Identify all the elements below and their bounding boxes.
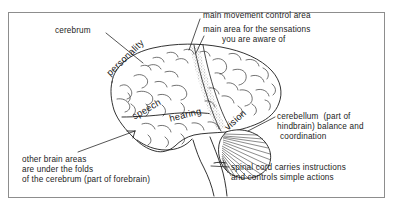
label-cerebellum-line3: coordination (280, 132, 326, 142)
leader-motor (189, 19, 200, 50)
label-other-brain-areas-line3: of the cerebrum (part of forebrain) (22, 175, 150, 185)
label-other-brain-areas-line1: other brain areas (22, 155, 86, 165)
label-cerebellum-line2: hindbrain) balance and (277, 122, 364, 132)
label-other-brain-areas-line2: are under the folds (22, 165, 93, 175)
label-sensory-area-line2: you are aware of (222, 35, 285, 45)
leader-cerebellum (248, 117, 275, 131)
label-sensory-area-line1: main area for the sensations (203, 25, 311, 35)
label-spinal-cord-line1: spinal cord carries instructions (231, 163, 346, 173)
label-cerebrum: cerebrum (55, 26, 91, 36)
label-spinal-cord-line2: and controls simple actions (231, 173, 334, 183)
figure-page: cerebrum main movement control area main… (0, 0, 401, 211)
label-cerebellum-line1: cerebellum (part of (277, 112, 351, 122)
leader-other-areas (78, 131, 135, 152)
label-main-movement-control-area: main movement control area (203, 11, 311, 21)
